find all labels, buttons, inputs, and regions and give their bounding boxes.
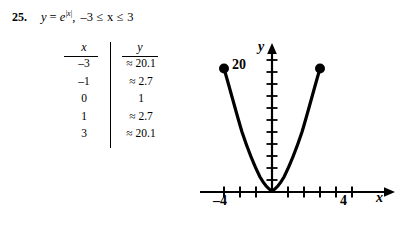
x-axis-arrowhead xyxy=(384,187,395,197)
problem-number: 25. xyxy=(12,10,27,25)
table-row: 1 ≈ 2.7 xyxy=(62,110,166,128)
equation-comma: , xyxy=(72,10,75,25)
table-header-y: y xyxy=(118,40,162,55)
equation-exponent: |x| xyxy=(65,9,72,18)
table-cell-x: 1 xyxy=(62,110,106,122)
table-cell-x: –3 xyxy=(62,57,106,69)
graph-figure: y x 20 –4 4 xyxy=(196,34,408,234)
table-row: 3 ≈ 20.1 xyxy=(62,127,166,145)
problem-statement: 25. y = e |x| , –3 ≤ x ≤ 3 xyxy=(12,10,134,25)
y-tick-label-20: 20 xyxy=(232,57,246,73)
table-cell-y: ≈ 20.1 xyxy=(118,127,164,139)
table-cell-x: 3 xyxy=(62,127,106,139)
table-header-x: x xyxy=(62,40,106,55)
x-axis-label: x xyxy=(376,190,383,206)
table-cell-x: 0 xyxy=(62,92,106,104)
endpoint-left xyxy=(219,64,229,74)
table-row: –1 ≈ 2.7 xyxy=(62,75,166,93)
value-table: x y –3 ≈ 20.1 –1 ≈ 2.7 0 1 1 ≈ 2.7 3 ≈ 2… xyxy=(62,40,166,145)
table-cell-y: 1 xyxy=(118,92,164,104)
x-tick-label-neg4: –4 xyxy=(213,193,227,209)
table-header-row: x y xyxy=(62,40,166,57)
domain-condition: –3 ≤ x ≤ 3 xyxy=(80,10,133,25)
table-row: –3 ≈ 20.1 xyxy=(62,57,166,75)
y-axis-arrowhead xyxy=(267,43,277,54)
table-row: 0 1 xyxy=(62,92,166,110)
x-tick-label-pos4: 4 xyxy=(340,193,347,209)
table-cell-x: –1 xyxy=(62,75,106,87)
axes xyxy=(200,43,395,197)
equals-sign: = xyxy=(50,10,57,25)
table-cell-y: ≈ 2.7 xyxy=(118,110,164,122)
y-axis-label: y xyxy=(258,39,264,55)
endpoint-right xyxy=(315,64,325,74)
table-cell-y: ≈ 20.1 xyxy=(118,57,164,69)
table-cell-y: ≈ 2.7 xyxy=(118,75,164,87)
equation-lhs: y xyxy=(41,10,47,25)
equation: y = e |x| , –3 ≤ x ≤ 3 xyxy=(41,10,134,25)
worksheet-page: 25. y = e |x| , –3 ≤ x ≤ 3 x y –3 ≈ 20.1… xyxy=(0,0,413,236)
